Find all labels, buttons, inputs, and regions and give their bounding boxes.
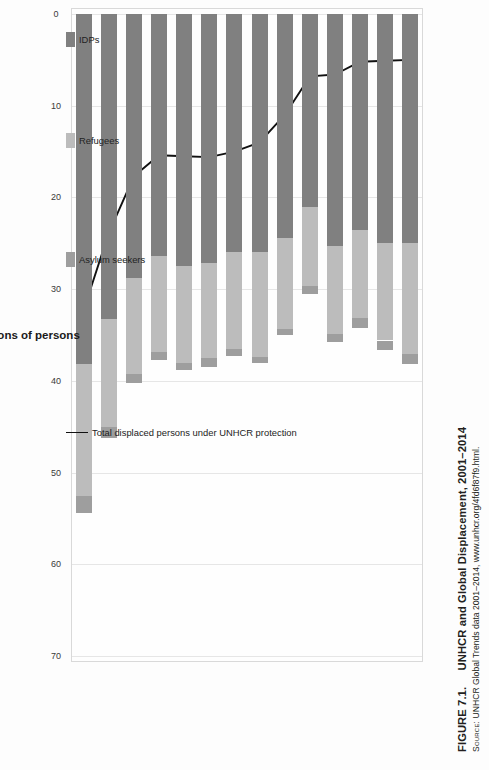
source-label: Source: — [471, 721, 481, 752]
legend-label: IDPs — [79, 34, 99, 45]
legend-label: Asylum seekers — [79, 254, 145, 265]
bar-row — [277, 0, 293, 700]
bar-row — [402, 0, 418, 700]
bar-segment-asy — [377, 341, 393, 350]
value-tick-70: 70 — [41, 651, 71, 661]
bar-segment-ref — [126, 278, 142, 374]
bar-segment-ref — [151, 256, 167, 351]
bar-segment-idps — [126, 14, 142, 278]
bar-segment-idps — [176, 14, 192, 266]
legend-line-marker — [66, 432, 88, 433]
bar-segment-asy — [151, 352, 167, 360]
figure-caption-block: FIGURE 7.1. UNHCR and Global Displacemen… — [437, 0, 489, 770]
legend-color-swatch — [66, 32, 75, 47]
bar-segment-ref — [201, 263, 217, 358]
bar-row — [226, 0, 242, 700]
bar-segment-idps — [201, 14, 217, 263]
legend-color-swatch — [66, 252, 75, 267]
legend-label: Total displaced persons under UNHCR prot… — [92, 427, 297, 438]
chart-canvas: 2001200220032004200520062007200820092010… — [0, 0, 437, 700]
bar-segment-idps — [226, 14, 242, 252]
figure-caption: FIGURE 7.1. UNHCR and Global Displacemen… — [456, 0, 468, 752]
source-text: UNHCR Global Trends data 2001–2014, www.… — [471, 447, 481, 719]
bar-row — [377, 0, 393, 700]
bar-row — [302, 0, 318, 700]
bar-segment-asy — [126, 374, 142, 382]
bar-segment-idps — [402, 14, 418, 243]
legend-label: Refugees — [79, 135, 119, 146]
bar-segment-asy — [226, 349, 242, 356]
bar-segment-ref — [302, 207, 318, 287]
value-tick-0: 0 — [41, 9, 71, 19]
bar-row — [201, 0, 217, 700]
bar-segment-ref — [226, 252, 242, 348]
bar-segment-asy — [277, 329, 293, 335]
legend-color-swatch — [66, 133, 75, 148]
bar-segment-asy — [352, 318, 368, 327]
bar-row — [126, 0, 142, 700]
axis-title: Millions of persons — [0, 329, 75, 341]
value-tick-30: 30 — [41, 284, 71, 294]
bar-segment-ref — [402, 243, 418, 354]
value-tick-40: 40 — [41, 376, 71, 386]
bar-segment-asy — [252, 357, 268, 363]
bar-segment-asy — [201, 358, 217, 367]
bar-row — [327, 0, 343, 700]
figure-source: Source: UNHCR Global Trends data 2001–20… — [471, 0, 481, 752]
value-tick-10: 10 — [41, 101, 71, 111]
bar-segment-idps — [277, 14, 293, 238]
bar-segment-idps — [252, 14, 268, 252]
bar-segment-asy — [402, 354, 418, 364]
bar-segment-asy — [176, 363, 192, 370]
bar-segment-ref — [277, 238, 293, 329]
chart-region: 2001200220032004200520062007200820092010… — [0, 0, 437, 700]
bar-segment-ref — [252, 252, 268, 357]
bar-segment-asy — [302, 286, 318, 293]
bar-row — [76, 0, 92, 700]
bar-segment-idps — [352, 14, 368, 230]
bar-segment-asy — [76, 496, 92, 513]
bar-segment-idps — [302, 14, 318, 207]
value-tick-20: 20 — [41, 192, 71, 202]
figure-number: FIGURE 7.1. — [456, 687, 468, 752]
bar-segment-idps — [327, 14, 343, 246]
bar-segment-ref — [327, 246, 343, 334]
bar-row — [151, 0, 167, 700]
bar-segment-idps — [76, 14, 92, 364]
bar-row — [352, 0, 368, 700]
bar-segment-asy — [327, 334, 343, 342]
bar-segment-idps — [151, 14, 167, 256]
bar-segment-ref — [101, 319, 117, 426]
value-tick-60: 60 — [41, 559, 71, 569]
plot-area: 2001200220032004200520062007200820092010… — [0, 0, 437, 700]
bar-segment-ref — [352, 230, 368, 318]
bar-row — [176, 0, 192, 700]
figure-title: UNHCR and Global Displacement, 2001–2014 — [456, 427, 468, 670]
figure-page: 2001200220032004200520062007200820092010… — [0, 0, 489, 770]
bar-segment-ref — [377, 243, 393, 340]
bar-row — [101, 0, 117, 700]
bar-row — [252, 0, 268, 700]
bar-segment-idps — [377, 14, 393, 243]
bar-segment-idps — [101, 14, 117, 319]
value-tick-50: 50 — [41, 468, 71, 478]
bar-segment-ref — [176, 266, 192, 362]
